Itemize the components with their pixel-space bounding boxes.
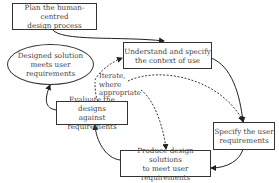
arrow-specify-to-produce [211,149,243,168]
node-solution-line1: Designed solution [18,51,83,60]
dashed-to-produce [141,90,166,149]
dashed-to-specify [128,75,243,121]
node-evaluate-line1: Evaluate the designs [57,95,127,113]
node-understand-line2: the context of use [135,56,200,65]
node-plan-line2: design process [27,21,81,30]
node-evaluate: Evaluate the designs against requirement… [56,101,128,125]
arrow-understand-to-specify [211,58,243,122]
arrow-evaluate-to-solution [46,85,56,110]
node-evaluate-line2: against requirements [57,113,127,131]
node-produce: Produce design solutions to meet user re… [120,150,211,177]
node-solution-line2: meets user requirements [8,60,93,78]
iterate-note: Iterate, where appropriate [99,72,141,98]
node-produce-line2: to meet user requirements [121,164,210,182]
node-understand-line1: Understand and specify [124,47,211,56]
node-understand: Understand and specify the context of us… [123,42,212,69]
node-specify-line1: Specify the user [214,127,273,136]
node-produce-line1: Produce design solutions [121,146,210,164]
node-specify: Specify the user requirements [213,122,275,150]
arrow-plan-to-understand [52,29,164,41]
node-specify-line2: requirements [219,136,268,145]
node-solution: Designed solution meets user requirement… [7,44,94,85]
iterate-note-line1: Iterate, [99,72,141,81]
node-plan: Plan the human-centred design process [12,3,97,30]
iterate-note-line2: where [99,81,141,90]
node-plan-line1: Plan the human-centred [13,3,96,21]
